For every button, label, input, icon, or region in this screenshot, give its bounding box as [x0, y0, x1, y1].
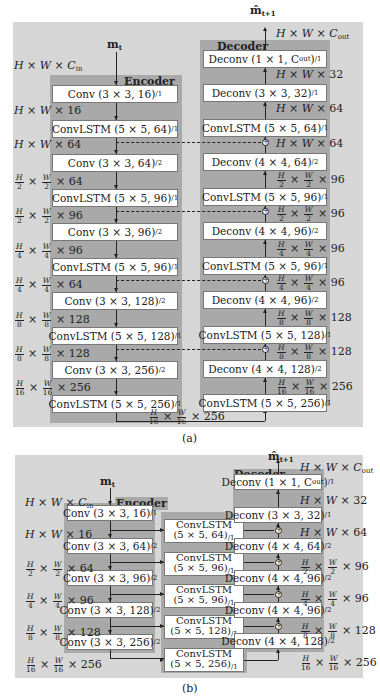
connector-line — [110, 562, 164, 563]
denominator: 2 — [44, 183, 49, 191]
channel-count: 96 — [331, 276, 345, 289]
times-sign: × — [160, 410, 176, 423]
width-symbol: W — [326, 461, 337, 474]
channel-sub: in — [87, 502, 94, 510]
dimension-label: H8 × W8 × 128 — [276, 344, 352, 360]
arrow-up-icon — [276, 490, 280, 494]
dimension-label: H4 × W4 × 96 — [300, 591, 369, 607]
layer-label: Deconv (4 × 4, 128) — [208, 364, 315, 375]
layer-box: Deconv (4 × 4, 96)/2 — [203, 222, 327, 240]
arrow-down-icon — [114, 150, 118, 154]
channel-count: 128 — [331, 345, 352, 358]
arrow-down-icon — [114, 185, 118, 189]
denominator: 16 — [305, 388, 315, 396]
layer-box: Deconv (1 × 1, Cout)/1 — [234, 474, 322, 490]
width-fraction: W4 — [42, 243, 52, 259]
height-symbol: H — [14, 104, 24, 117]
dimension-label: H2 × W2 × 96 — [300, 559, 369, 575]
dimension-label: H × W × 64 — [276, 138, 343, 149]
dimension-label: H4 × W4 × 96 — [14, 243, 83, 259]
layer-box: Deconv (1 × 1, Cout)/1 — [203, 50, 327, 68]
channel-count: 96 — [355, 592, 369, 605]
connector-line — [116, 413, 117, 421]
layer-box: ConvLSTM (5 × 5, 64)/1 — [203, 119, 327, 137]
times-sign: × — [311, 624, 327, 637]
add-node-icon: + — [262, 346, 269, 353]
denominator: 4 — [17, 252, 22, 260]
width-fraction: W16 — [305, 379, 315, 395]
height-fraction: H4 — [15, 277, 24, 293]
times-sign: × — [286, 137, 302, 150]
channel-count: C — [353, 461, 361, 474]
width-fraction: W16 — [177, 409, 187, 425]
channel-count: 128 — [355, 624, 376, 637]
denominator: 8 — [306, 319, 311, 327]
times-sign: × — [287, 173, 303, 186]
layer-label-sub: out — [299, 56, 311, 63]
times-sign: × — [62, 528, 78, 541]
channel-count: 64 — [329, 137, 343, 150]
height-symbol: H — [300, 526, 310, 539]
add-node-icon: + — [275, 623, 282, 630]
layer-label: Deconv (4 × 4, 96) — [212, 226, 312, 237]
channel-count: 64 — [329, 102, 343, 115]
height-fraction: H4 — [26, 593, 35, 609]
layer-box: Deconv (4 × 4, 96)/2 — [203, 291, 327, 309]
dimension-label: H4 × W4 × 96 — [276, 275, 345, 291]
width-fraction: W8 — [53, 625, 63, 641]
height-fraction: H4 — [301, 591, 310, 607]
arrow-right-icon — [160, 560, 164, 564]
channel-count: 32 — [329, 68, 343, 81]
layer-stride: /1 — [171, 195, 178, 202]
dimension-label: H × W × 64 — [14, 139, 81, 150]
denominator: 16 — [277, 388, 287, 396]
layer-stride: /1 — [175, 401, 182, 408]
layer-label: Deconv (4 × 4, 96) — [212, 295, 312, 306]
channel-sub: out — [362, 467, 374, 475]
layer-stride: /2 — [312, 159, 319, 166]
denominator: 4 — [17, 286, 22, 294]
times-sign: × — [35, 528, 51, 541]
add-node-icon: + — [275, 559, 282, 566]
channel-count: 64 — [69, 278, 83, 291]
layer-box: ConvLSTM (5 × 5, 96)/1 — [52, 258, 178, 276]
arrow-down-icon — [114, 288, 118, 292]
layer-box: Deconv (4 × 4, 64)/2 — [234, 538, 322, 554]
width-fraction: W8 — [42, 346, 52, 362]
connector-line — [110, 658, 164, 659]
layer-stride: /2 — [150, 543, 157, 550]
denominator: 8 — [306, 353, 311, 361]
layer-box: ConvLSTM (5 × 5, 128)/1 — [52, 327, 178, 345]
denominator: 16 — [54, 666, 64, 674]
add-node-icon: + — [275, 591, 282, 598]
times-sign: × — [314, 173, 330, 186]
denominator: 4 — [303, 600, 308, 608]
height-symbol: H — [300, 494, 310, 507]
denominator: 8 — [279, 353, 284, 361]
denominator: 2 — [279, 181, 284, 189]
denominator: 2 — [17, 217, 22, 225]
width-fraction: W2 — [42, 174, 52, 190]
connector-line — [110, 530, 164, 531]
denominator: 8 — [44, 321, 49, 329]
width-fraction: W16 — [329, 655, 339, 671]
times-sign: × — [311, 560, 327, 573]
channel-count: 96 — [69, 209, 83, 222]
input-symbol: mt — [100, 475, 115, 489]
arrow-up-icon — [263, 27, 267, 31]
denominator: 4 — [55, 602, 60, 610]
channel-count: 128 — [80, 626, 101, 639]
layer-label: (5 × 5, 256) — [170, 658, 231, 669]
layer-label: Conv (3 × 3, 16) — [68, 89, 155, 100]
channel-count: 16 — [67, 104, 81, 117]
layer-stride: /2 — [150, 575, 157, 582]
arrow-down-icon — [108, 630, 112, 634]
denominator: 2 — [306, 181, 311, 189]
layer-label: Deconv (4 × 4, 64) — [225, 541, 325, 552]
layer-stride: /1 — [325, 512, 332, 519]
arrow-up-icon — [276, 649, 280, 653]
times-sign: × — [337, 526, 353, 539]
layer-stride: /2 — [155, 229, 162, 236]
layer-label: Conv (3 × 3, 64) — [63, 541, 150, 552]
connector-line — [110, 650, 111, 658]
